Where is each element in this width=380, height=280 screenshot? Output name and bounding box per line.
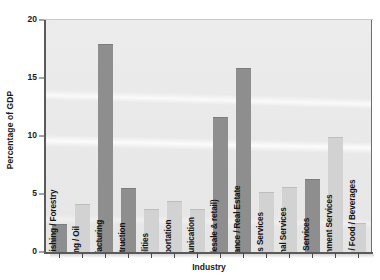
x-axis-tick-mark [151,253,152,258]
x-axis-tick-slot [209,253,232,258]
bar-category-label: Utilities [139,233,152,252]
y-axis-title-text: Percentage of GDP [5,91,15,170]
bar-slot: Agriculture / Fishing / Forestry [48,20,71,252]
x-axis-title: Industry [46,262,372,272]
bar-slot: Trade (wholesale & retail) [209,20,232,252]
x-axis-tick-slot [117,253,140,258]
x-axis-tick-mark [197,253,198,258]
bar-slot: Health Services [301,20,324,252]
plot-right-border [371,20,372,253]
x-axis-tick-mark [174,253,175,258]
bar-category-label: Educational Services [277,207,290,252]
y-axis-tick-label: 10 [28,130,37,140]
x-axis-tick-mark [243,253,244,258]
x-axis-tick-mark [358,253,359,258]
bar-category-label: Construction [116,223,129,252]
x-axis-tick-slot [232,253,255,258]
x-axis-tick-slot [347,253,370,258]
y-axis-tick: 20 [20,20,44,21]
bar-slot: Other Government Services [324,20,347,252]
x-axis-tick-mark [82,253,83,258]
bar-slot: Construction [117,20,140,252]
y-axis-tick: 0 [20,252,44,253]
bar-slot: Mining / Oil [71,20,94,252]
x-axis-tick-mark [220,253,221,258]
x-axis-tick-slot [255,253,278,258]
x-axis-tick-slot [48,253,71,258]
bar-category-label: Trade (wholesale & retail) [208,199,221,252]
bar-category-label: Transportation [162,220,175,252]
x-axis-tick-mark [335,253,336,258]
x-axis-tick-slot [163,253,186,258]
y-axis-title: Percentage of GDP [0,0,20,260]
y-axis-tick-label: 15 [28,72,37,82]
bar-slot: Transportation [163,20,186,252]
bar-category-label: Health Services [300,218,313,252]
bar-category-label: Agriculture / Fishing / Forestry [47,190,60,253]
x-axis-tick-mark [105,253,106,258]
y-axis-tick-label: 0 [32,246,37,256]
bar-slot: Utilities [140,20,163,252]
bar-slot: Accommodation / Food / Beverages [347,20,370,252]
x-axis-tick-slot [278,253,301,258]
plot-area: Agriculture / Fishing / ForestryMining /… [46,20,372,252]
x-axis-tick-mark [312,253,313,258]
y-axis: 05101520 [20,14,44,258]
bar-slot: Educational Services [278,20,301,252]
bar-slot: Business Services [255,20,278,252]
bar-series: Agriculture / Fishing / ForestryMining /… [46,20,372,252]
x-axis-tick-slot [301,253,324,258]
x-axis-tick-slot [140,253,163,258]
y-axis-tick-label: 5 [32,188,37,198]
bar-category-label: Manufacturing [93,220,106,252]
x-axis-tick-mark [59,253,60,258]
y-axis-tick: 10 [20,136,44,137]
bar-category-label: Finance / Insurance / Real Estate [231,185,244,252]
bar-category-label: Communication [185,217,198,252]
x-axis-ticks [46,253,372,258]
bar-category-label: Business Services [254,212,267,252]
bar-slot: Communication [186,20,209,252]
x-axis-tick-slot [324,253,347,258]
bar-category-label: Accommodation / Food / Beverages [346,179,359,252]
x-axis-tick-slot [186,253,209,258]
x-axis-tick-mark [266,253,267,258]
bar-category-label: Mining / Oil [70,226,83,252]
bar-chart-figure: Percentage of GDP 05101520 Agriculture /… [0,0,380,280]
y-axis-tick: 5 [20,194,44,195]
x-axis-tick-mark [128,253,129,258]
x-axis-tick-slot [94,253,117,258]
bar-slot: Finance / Insurance / Real Estate [232,20,255,252]
y-axis-tick-label: 20 [28,14,37,24]
bar-category-label: Other Government Services [323,195,336,252]
bar-slot: Manufacturing [94,20,117,252]
x-axis-tick-mark [289,253,290,258]
y-axis-tick: 15 [20,78,44,79]
x-axis-tick-slot [71,253,94,258]
